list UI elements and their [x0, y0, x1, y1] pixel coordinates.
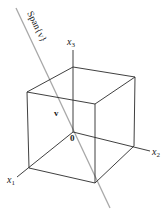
edge: [29, 168, 95, 183]
x2-label: x2: [151, 146, 160, 159]
edge: [134, 77, 135, 146]
span-line: [16, 8, 110, 208]
edge: [27, 92, 29, 168]
cube: [27, 67, 135, 183]
edge: [95, 146, 134, 183]
x2-axis: [73, 132, 150, 151]
x3-label: x3: [66, 36, 75, 49]
edge: [95, 77, 135, 104]
edge: [27, 67, 73, 92]
edge: [27, 92, 95, 104]
edge: [73, 67, 135, 77]
origin-label: 0: [70, 133, 75, 143]
x1-label: x1: [6, 174, 15, 187]
vector-label: v: [54, 108, 59, 118]
x1-axis: [17, 132, 73, 177]
span-diagram: Span{v} x3 x2 x1 v 0: [0, 0, 167, 214]
span-label: Span{v}: [25, 9, 48, 43]
